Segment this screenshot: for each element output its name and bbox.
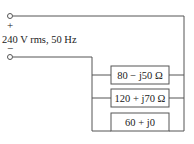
- bottom-terminal: [8, 55, 13, 60]
- source-label: 240 V rms, 50 Hz: [2, 34, 77, 45]
- circuit-diagram: + 240 V rms, 50 Hz − 80 − j50 Ω 120 + j7…: [0, 0, 194, 144]
- minus-sign: −: [7, 42, 13, 54]
- impedance-label-2: 120 + j70 Ω: [115, 93, 166, 104]
- impedance-label-3: 60 + j0: [125, 117, 155, 128]
- plus-sign: +: [7, 19, 13, 31]
- top-terminal: [8, 14, 13, 19]
- impedance-label-1: 80 − j50 Ω: [117, 70, 163, 81]
